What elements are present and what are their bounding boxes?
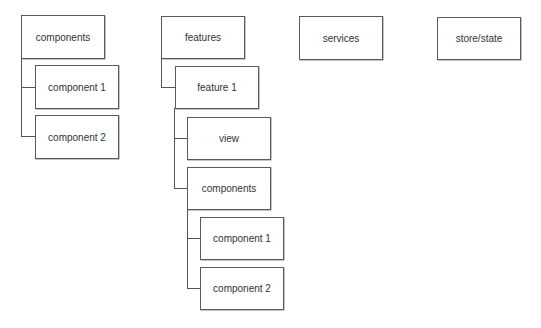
node-feature1: feature 1 — [175, 66, 259, 109]
connector-feature1-trunk — [174, 108, 175, 188]
node-feature1-components: components — [187, 167, 271, 210]
node-label: feature 1 — [197, 82, 236, 93]
connector-components-component2 — [21, 136, 35, 137]
node-label: components — [36, 32, 90, 43]
connector-feature1-components-component1 — [187, 238, 200, 239]
node-label: view — [219, 133, 239, 144]
connector-feature1-components-component2 — [187, 288, 200, 289]
node-store-state: store/state — [437, 17, 521, 60]
node-feature1-components-component1: component 1 — [200, 217, 284, 260]
connector-features-trunk — [161, 58, 162, 88]
node-label: store/state — [456, 33, 503, 44]
node-components: components — [21, 15, 105, 59]
connector-components-trunk — [21, 58, 22, 137]
node-components-component2: component 2 — [35, 115, 119, 159]
folder-structure-diagram: components component 1 component 2 featu… — [0, 0, 541, 328]
connector-feature1-view — [174, 138, 187, 139]
node-label: component 2 — [213, 283, 271, 294]
node-components-component1: component 1 — [35, 65, 119, 109]
connector-feature1-components — [174, 188, 187, 189]
node-features: features — [161, 16, 245, 59]
node-feature1-view: view — [187, 117, 271, 160]
node-label: component 1 — [213, 233, 271, 244]
connector-features-feature1 — [161, 87, 175, 88]
node-services: services — [299, 16, 383, 60]
connector-components-component1 — [21, 87, 35, 88]
connector-feature1-components-trunk — [187, 209, 188, 289]
node-label: services — [323, 33, 360, 44]
node-label: features — [185, 32, 221, 43]
node-label: component 2 — [48, 132, 106, 143]
node-feature1-components-component2: component 2 — [200, 267, 284, 310]
node-label: components — [202, 183, 256, 194]
node-label: component 1 — [48, 82, 106, 93]
